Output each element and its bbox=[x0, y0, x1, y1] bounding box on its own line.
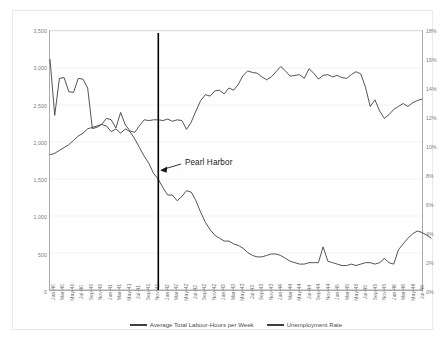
y-axis-right-tick-label: 8% bbox=[426, 173, 434, 179]
y-axis-right-tick-label: 4% bbox=[426, 231, 434, 237]
y-axis-right-tick-label: 2% bbox=[426, 260, 434, 266]
legend-item-labour-hours: Average Total Labour-Hours per Week bbox=[130, 322, 254, 328]
legend-swatch-icon bbox=[267, 324, 284, 325]
chart-frame: 05001,0001,5002,0002,5003,0003,500 0%2%4… bbox=[12, 10, 433, 330]
y-axis-right-tick-label: 0% bbox=[426, 289, 434, 295]
y-axis-left-tick-label: 500 bbox=[38, 252, 47, 258]
y-axis-right-tick-label: 6% bbox=[426, 202, 434, 208]
y-axis-left-tick-label: 3,000 bbox=[34, 65, 47, 71]
y-axis-left-tick-label: 1,000 bbox=[34, 214, 47, 220]
legend-label: Average Total Labour-Hours per Week bbox=[150, 322, 254, 328]
y-axis-right-tick-label: 10% bbox=[426, 144, 437, 150]
y-axis-left-tick-label: 3,500 bbox=[34, 28, 47, 34]
legend-swatch-icon bbox=[130, 324, 147, 325]
chart-container: 05001,0001,5002,0002,5003,0003,500 0%2%4… bbox=[0, 0, 445, 341]
y-axis-left-tick-label: 1,500 bbox=[34, 177, 47, 183]
y-axis-right-tick-label: 14% bbox=[426, 86, 437, 92]
x-axis-tick: Jul-46 bbox=[412, 292, 426, 298]
pearl-harbor-label: Pearl Harbor bbox=[185, 158, 233, 167]
y-axis-left-tick-label: 2,000 bbox=[34, 140, 47, 146]
y-axis-left-tick-label: 2,500 bbox=[34, 103, 47, 109]
y-axis-right-tick-label: 12% bbox=[426, 115, 437, 121]
chart-legend: Average Total Labour-Hours per Week Unem… bbox=[49, 322, 423, 328]
pearl-harbor-annotation bbox=[50, 31, 422, 290]
plot-area: 05001,0001,5002,0002,5003,0003,500 0%2%4… bbox=[49, 30, 423, 291]
legend-label: Unemployment Rate bbox=[287, 322, 343, 328]
legend-item-unemployment-rate: Unemployment Rate bbox=[267, 322, 343, 328]
y-axis-right-tick-label: 16% bbox=[426, 57, 437, 63]
y-axis-right-tick-label: 18% bbox=[426, 28, 437, 34]
